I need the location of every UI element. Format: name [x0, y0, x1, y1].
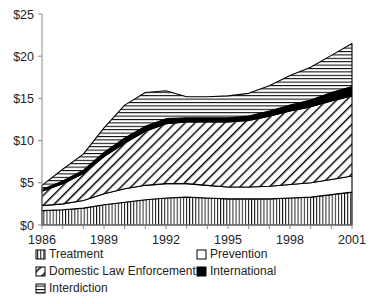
- legend-swatch-domestic-law-enforcement: [36, 267, 45, 276]
- x-axis-tick-label: 1986: [28, 233, 56, 247]
- chart-svg: $0$5$10$15$20$25 19861989199219951998200…: [0, 0, 374, 304]
- x-axis-tick-label: 1998: [276, 233, 304, 247]
- y-axis-tick-label: $0: [20, 219, 34, 233]
- y-axis-tick-label: $5: [20, 176, 34, 190]
- legend-swatch-treatment: [36, 250, 45, 259]
- legend-swatch-prevention: [197, 250, 206, 259]
- stacked-area-chart: $0$5$10$15$20$25 19861989199219951998200…: [0, 0, 374, 304]
- x-axis-tick-label: 1989: [90, 233, 118, 247]
- legend-label-treatment: Treatment: [49, 247, 104, 261]
- legend-swatch-interdiction: [36, 284, 45, 293]
- legend-label-prevention: Prevention: [210, 247, 267, 261]
- x-axis-tick-label: 1995: [214, 233, 242, 247]
- y-axis-tick-label: $10: [13, 134, 34, 148]
- legend-label-international: International: [210, 264, 276, 278]
- y-axis-tick-label: $15: [13, 92, 34, 106]
- y-axis-tick-label: $25: [13, 8, 34, 22]
- x-axis-tick-label: 2001: [338, 233, 366, 247]
- x-axis-tick-label: 1992: [152, 233, 180, 247]
- legend-label-interdiction: Interdiction: [49, 281, 108, 295]
- y-axis-tick-label: $20: [13, 50, 34, 64]
- legend-label-domestic-law-enforcement: Domestic Law Enforcement: [49, 264, 196, 278]
- legend-swatch-international: [197, 267, 206, 276]
